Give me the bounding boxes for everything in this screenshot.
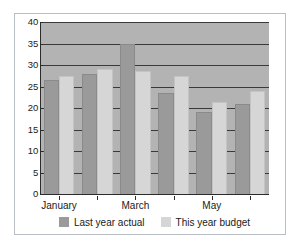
- y-tick-label: 30: [16, 60, 38, 69]
- chart-figure: 0510152025303540 JanuaryMarchMay Last ye…: [14, 13, 286, 235]
- y-tick-label: 10: [16, 146, 38, 155]
- y-tick-mark: [40, 44, 43, 45]
- x-tick-mark: [250, 196, 251, 200]
- y-tick-mark: [40, 130, 43, 131]
- y-tick-label: 0: [16, 189, 38, 198]
- x-tick-label: January: [29, 200, 89, 211]
- y-tick-label: 25: [16, 82, 38, 91]
- bar-last-year-actual: [120, 44, 135, 195]
- gridline: [40, 22, 269, 23]
- legend-label-this-year-budget: This year budget: [176, 217, 251, 228]
- y-tick-mark: [40, 151, 43, 152]
- gridline: [40, 44, 269, 45]
- x-tick-mark: [174, 196, 175, 200]
- bar-this-year-budget: [174, 76, 189, 194]
- x-axis-labels: JanuaryMarchMay: [40, 196, 269, 214]
- y-tick-label: 5: [16, 168, 38, 177]
- bar-this-year-budget: [250, 91, 265, 194]
- legend-item-this-year-budget: This year budget: [161, 217, 251, 228]
- bar-this-year-budget: [135, 71, 150, 194]
- x-tick-label: March: [105, 200, 165, 211]
- y-tick-mark: [40, 87, 43, 88]
- gridline: [40, 65, 269, 66]
- legend-item-last-year-actual: Last year actual: [59, 217, 145, 228]
- y-tick-mark: [40, 108, 43, 109]
- bar-last-year-actual: [158, 93, 173, 194]
- x-tick-mark: [97, 196, 98, 200]
- legend-swatch-icon-light: [161, 217, 171, 227]
- bar-this-year-budget: [97, 69, 112, 194]
- plot-area: [40, 22, 269, 194]
- bar-last-year-actual: [235, 104, 250, 194]
- y-axis-labels: 0510152025303540: [15, 22, 38, 194]
- y-tick-mark: [40, 173, 43, 174]
- y-tick-mark: [40, 65, 43, 66]
- x-axis-line: [40, 194, 269, 195]
- y-tick-label: 20: [16, 103, 38, 112]
- bar-this-year-budget: [59, 76, 74, 194]
- gridline: [40, 87, 269, 88]
- bar-this-year-budget: [212, 102, 227, 194]
- legend-swatch-icon-dark: [59, 217, 69, 227]
- bar-last-year-actual: [82, 74, 97, 194]
- y-tick-label: 40: [16, 17, 38, 26]
- chart-legend: Last year actual This year budget: [40, 214, 269, 230]
- y-tick-mark: [40, 194, 43, 195]
- y-tick-mark: [40, 22, 43, 23]
- bar-last-year-actual: [44, 80, 59, 194]
- bar-last-year-actual: [196, 112, 211, 194]
- y-tick-label: 15: [16, 125, 38, 134]
- legend-label-last-year-actual: Last year actual: [74, 217, 145, 228]
- x-tick-label: May: [182, 200, 242, 211]
- y-tick-label: 35: [16, 39, 38, 48]
